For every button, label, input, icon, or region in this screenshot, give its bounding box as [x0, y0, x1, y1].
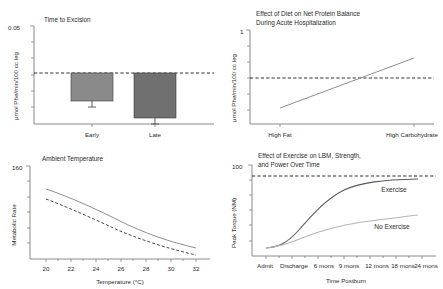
- x-axis-ticks: [280, 124, 414, 127]
- data-line-no-exercise: [266, 215, 418, 248]
- error-bar-early: [88, 101, 96, 107]
- error-bar-late: [151, 118, 159, 124]
- y-axis-ticks: [26, 166, 30, 243]
- chart-ambient-temperature: Ambient Temperature 160 Metabolic Rate: [0, 145, 222, 289]
- x-tick-label: 18 mons: [391, 262, 415, 269]
- x-axis-ticks: [92, 124, 155, 127]
- x-tick-label: Discharge: [280, 262, 308, 269]
- data-line-lower: [46, 199, 196, 255]
- chart-title-line2: and Power Over Time: [258, 161, 320, 168]
- chart-title-line1: Effect of Exercise on LBM, Strength,: [258, 152, 361, 160]
- chart-title: Time to Excision: [44, 16, 91, 23]
- x-tick-label: 32: [193, 265, 200, 272]
- x-tick-label: Admit: [257, 262, 273, 269]
- data-line: [280, 58, 414, 108]
- x-tick-label: 12 mons: [365, 262, 389, 269]
- y-axis-label: Peak Torque (NM): [230, 198, 237, 248]
- y-tick-label: 100: [232, 163, 243, 170]
- chart-exercise-lbm-strength-power: Effect of Exercise on LBM, Strength, and…: [222, 145, 443, 289]
- chart-time-to-excision: Time to Excision 0.05 μmol Phe/min/100 c…: [0, 0, 222, 145]
- y-tick-label: 160: [12, 164, 23, 171]
- x-axis-ticks: [46, 259, 196, 262]
- x-tick-label: 20: [43, 265, 50, 272]
- x-tick-label: 26: [118, 265, 125, 272]
- x-tick-label: 30: [168, 265, 175, 272]
- chart-diet-net-protein-balance: Effect of Diet on Net Protein Balance Du…: [222, 0, 443, 145]
- figure-grid: Time to Excision 0.05 μmol Phe/min/100 c…: [0, 0, 443, 289]
- data-line-upper: [46, 189, 196, 248]
- x-tick-label: 28: [143, 265, 150, 272]
- series-label-no-exercise: No Exercise: [374, 223, 410, 230]
- x-axis-label: Temperature (°C): [96, 278, 144, 285]
- x-tick-label: 6 mons: [314, 262, 334, 269]
- x-tick-label-early: Early: [85, 131, 100, 138]
- x-tick-label-high-carbohydrate: High Carbohydrate: [386, 131, 438, 138]
- chart-title: Ambient Temperature: [42, 155, 103, 163]
- chart-title-line1: Effect of Diet on Net Protein Balance: [256, 10, 360, 17]
- x-axis-ticks: [266, 256, 422, 259]
- bar-early: [71, 73, 113, 101]
- x-tick-label-late: Late: [149, 131, 162, 138]
- y-axis-label: μmol Phe/min/100 cc leg: [12, 52, 19, 120]
- y-tick-label: 1: [240, 28, 244, 35]
- x-tick-label: 9 mons: [339, 262, 359, 269]
- x-tick-label: 24: [93, 265, 100, 272]
- y-axis-label: μmol Phe/min/100 cc leg: [230, 54, 237, 122]
- series-label-exercise: Exercise: [381, 186, 407, 193]
- y-axis-ticks: [30, 26, 34, 107]
- x-tick-label: 24 mons: [414, 262, 438, 269]
- bar-late: [134, 73, 176, 118]
- chart-title-line2: During Acute Hospitalization: [256, 19, 336, 27]
- x-tick-label-high-fat: High Fat: [268, 131, 292, 138]
- y-axis-label: Metabolic Rate: [10, 204, 17, 246]
- x-axis-label: Time Postburn: [326, 277, 367, 284]
- x-tick-label: 22: [68, 265, 75, 272]
- y-axis-ticks: [246, 30, 250, 110]
- y-tick-label: 0.05: [8, 24, 21, 31]
- y-axis-ticks: [248, 165, 252, 241]
